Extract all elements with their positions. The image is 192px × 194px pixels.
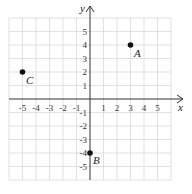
svg-text:-5: -5 [80,162,88,172]
coordinate-plane: x y -5 -4 -3 -2 -1 1 2 3 4 5 5 4 3 2 1 -… [0,0,192,194]
svg-text:5: 5 [83,27,88,37]
svg-text:3: 3 [128,103,133,113]
svg-text:2: 2 [115,103,120,113]
svg-text:-4: -4 [80,148,88,158]
svg-text:1: 1 [101,103,106,113]
svg-text:-3: -3 [46,103,54,113]
svg-text:4: 4 [83,40,88,50]
svg-text:-3: -3 [80,135,88,145]
svg-text:-1: -1 [80,108,88,118]
svg-text:5: 5 [155,103,160,113]
point-b: B [87,150,100,166]
svg-text:2: 2 [83,67,88,77]
svg-text:4: 4 [142,103,147,113]
x-axis-label: x [177,101,183,113]
svg-text:-2: -2 [80,121,88,131]
y-axis-label: y [79,2,85,14]
svg-text:B: B [93,154,100,166]
svg-text:-2: -2 [59,103,67,113]
svg-text:C: C [26,74,34,86]
svg-text:3: 3 [83,54,88,64]
svg-text:1: 1 [83,81,88,91]
svg-text:-4: -4 [32,103,40,113]
svg-text:A: A [133,47,141,59]
svg-text:-5: -5 [19,103,27,113]
